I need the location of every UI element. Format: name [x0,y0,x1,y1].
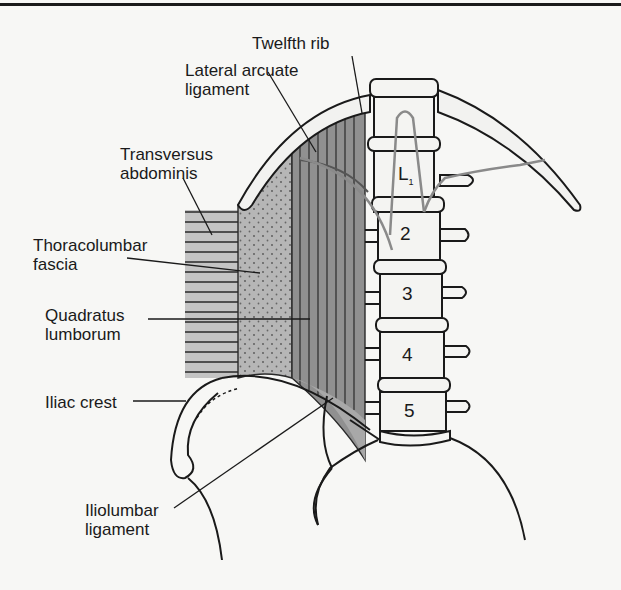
label-quadratus-lumborum: Quadratus lumborum [45,306,124,344]
vertebra-label-l1: L1 [398,163,414,187]
vertebra-label-l5: 5 [404,400,415,422]
label-transversus-abdominis: Transversus abdominis [120,145,213,183]
label-iliac-crest: Iliac crest [45,393,117,412]
iliac-crest-dashed-line [197,388,240,418]
label-thoracolumbar-fascia: Thoracolumbar fascia [33,236,147,274]
label-twelfth-rib: Twelfth rib [252,34,329,53]
twelfth-rib-right-shape [438,90,580,211]
label-lateral-arcuate-ligament: Lateral arcuate ligament [185,61,298,99]
vertebra-label-l3: 3 [402,283,413,305]
vertebra-label-l4: 4 [402,344,413,366]
vertebra-label-l2: 2 [400,223,411,245]
vertebral-column [368,79,450,446]
quadratus-lumborum-shape [292,98,365,460]
label-iliolumbar-ligament: Iliolumbar ligament [85,501,159,539]
